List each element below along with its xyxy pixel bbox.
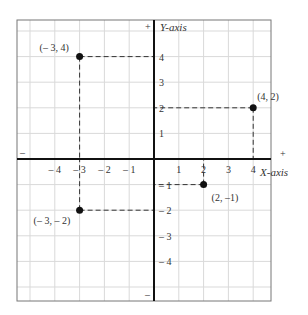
y-tick-label: 2 [159, 103, 164, 114]
x-tick-label: – 3 [72, 164, 86, 175]
point-marker [76, 53, 83, 60]
point-marker [200, 181, 207, 188]
x-tick-label: – 2 [97, 164, 111, 175]
x-tick-label: 2 [201, 164, 206, 175]
x-minus-sign: – [19, 147, 26, 158]
x-plus-sign: + [280, 148, 286, 159]
x-tick-label: 3 [226, 164, 231, 175]
y-minus-sign: – [144, 289, 151, 300]
x-tick-label: 4 [251, 164, 256, 175]
x-tick-label: – 4 [48, 164, 62, 175]
y-tick-label: 3 [159, 77, 164, 88]
y-tick-label: 1 [159, 128, 164, 139]
y-axis-label: Y-axis [160, 21, 187, 33]
y-tick-label: – 4 [158, 256, 172, 267]
data-points: (– 3, 4)(4, 2)(2, –1)(– 3, – 2) [34, 42, 279, 228]
y-tick-label: – 1 [158, 180, 172, 191]
y-tick-label: – 2 [158, 205, 172, 216]
x-tick-label: 1 [176, 164, 181, 175]
x-tick-label: – 1 [122, 164, 136, 175]
point-marker [250, 104, 257, 111]
coordinate-plane: – 4– 3– 2– 112344321– 1– 2– 3– 4 Y-axis … [0, 0, 308, 315]
point-label: (4, 2) [257, 91, 279, 103]
point-marker [76, 207, 83, 214]
point-label: (2, –1) [212, 192, 239, 204]
grid-lines [17, 20, 271, 301]
y-tick-label: – 3 [158, 231, 172, 242]
point-label: (– 3, – 2) [34, 215, 71, 227]
y-plus-sign: + [145, 21, 151, 32]
point-label: (– 3, 4) [40, 42, 69, 54]
x-axis-label: X-axis [259, 166, 288, 178]
y-tick-label: 4 [159, 52, 164, 63]
